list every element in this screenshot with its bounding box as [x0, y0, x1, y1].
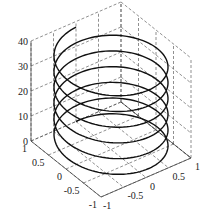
helix-curve — [54, 27, 168, 174]
x-tick-label: -0.5 — [128, 190, 144, 201]
x-tick-label: 0 — [150, 181, 155, 192]
z-tick-label: 10 — [18, 111, 28, 122]
y-tick-label: -0.5 — [64, 185, 80, 196]
x-tick-label: -1 — [103, 200, 111, 211]
x-tick-label: 1 — [195, 161, 200, 172]
grid-lines — [31, 2, 191, 197]
helix-3d-plot: 01020304010.50-0.5-1-1-0.500.51 — [0, 0, 211, 219]
y-tick-label: -1 — [89, 199, 97, 210]
z-tick-label: 20 — [18, 86, 28, 97]
tick-labels: 01020304010.50-0.5-1-1-0.500.51 — [18, 36, 200, 212]
y-tick-label: 0 — [57, 171, 62, 182]
z-tick-label: 40 — [18, 36, 28, 47]
y-tick-label: 1 — [22, 143, 27, 154]
x-tick-label: 0.5 — [173, 171, 186, 182]
y-tick-label: 0.5 — [32, 157, 45, 168]
z-tick-label: 30 — [18, 61, 28, 72]
